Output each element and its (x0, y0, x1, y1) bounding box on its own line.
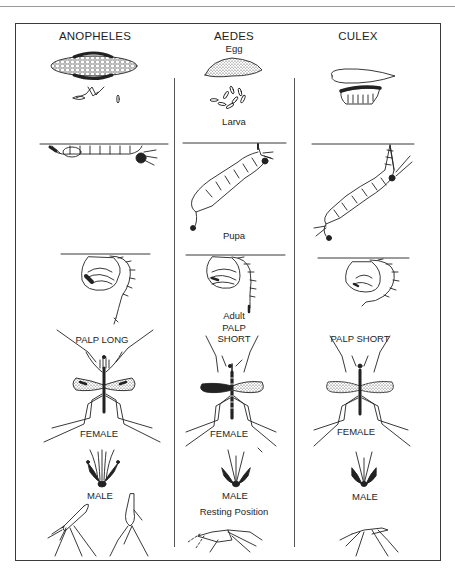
anopheles-egg-cluster-icon (73, 87, 119, 103)
culex-egg-icon (331, 69, 395, 83)
anopheles-pupa-icon (82, 256, 135, 324)
aedes-egg-icon (205, 58, 262, 77)
aedes-larva-icon (191, 144, 274, 231)
culex-male-head-icon (352, 452, 376, 487)
culex-resting-icon (340, 528, 398, 556)
anopheles-larva-icon (50, 146, 157, 165)
aedes-female-icon (186, 336, 276, 446)
culex-egg-raft-icon (341, 87, 380, 104)
aedes-pupa-icon (207, 257, 256, 312)
water-surface-line (40, 143, 414, 258)
anopheles-resting-icon (48, 494, 148, 556)
aedes-resting-icon (188, 530, 262, 552)
aedes-egg-cluster-icon (210, 86, 246, 109)
illustration-layer (0, 0, 455, 578)
culex-pupa-icon (346, 259, 399, 306)
culex-female-icon (314, 336, 410, 446)
anopheles-egg-icon (51, 53, 137, 79)
culex-larva-icon (314, 145, 412, 241)
anopheles-female-icon (44, 330, 160, 442)
aedes-male-head-icon (222, 448, 262, 487)
anopheles-male-head-icon (87, 450, 120, 487)
